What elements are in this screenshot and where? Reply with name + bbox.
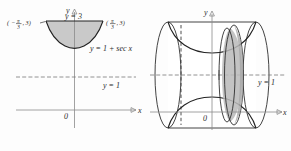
left-endpoint-label: ( − π 3 , 3) bbox=[7, 18, 31, 30]
right-endpoint-numerator: π bbox=[111, 18, 114, 24]
right-endpoint-open: ( bbox=[106, 19, 109, 27]
right-endpoint-denominator: 3 bbox=[111, 24, 114, 30]
right-endpoint-tail: , 3) bbox=[117, 19, 125, 27]
origin-label: 0 bbox=[64, 112, 68, 121]
calculus-figure: x y 0 y = 1 y = 3 y = 1 + sec x ( − π 3 bbox=[0, 0, 291, 151]
y-axis-label: y bbox=[203, 8, 208, 17]
left-endpoint-denominator: 3 bbox=[17, 24, 20, 30]
left-endpoint-minus: − bbox=[11, 19, 15, 26]
axis-of-revolution-label: y = 1 bbox=[102, 81, 120, 90]
right-figure-solid: y = 1 x y 0 bbox=[146, 0, 291, 151]
x-axis-label: x bbox=[137, 106, 142, 115]
origin-label: 0 bbox=[203, 114, 207, 123]
right-svg: y = 1 x y 0 bbox=[146, 0, 291, 151]
top-line-label: y = 3 bbox=[64, 12, 82, 21]
left-svg: x y 0 y = 1 y = 3 y = 1 + sec x ( − π 3 bbox=[0, 0, 146, 151]
left-endpoint-tail: , 3) bbox=[23, 19, 31, 27]
left-endpoint-open: ( bbox=[7, 19, 10, 27]
axis-of-revolution-label: y = 1 bbox=[257, 78, 275, 87]
curve-label: y = 1 + sec x bbox=[89, 44, 133, 53]
x-axis-label: x bbox=[282, 108, 287, 117]
left-figure-region-plot: x y 0 y = 1 y = 3 y = 1 + sec x ( − π 3 bbox=[0, 0, 146, 151]
right-endpoint-label: ( π 3 , 3) bbox=[106, 18, 125, 30]
left-endpoint-numerator: π bbox=[17, 18, 20, 24]
left-endpoint-leader bbox=[40, 22, 46, 24]
